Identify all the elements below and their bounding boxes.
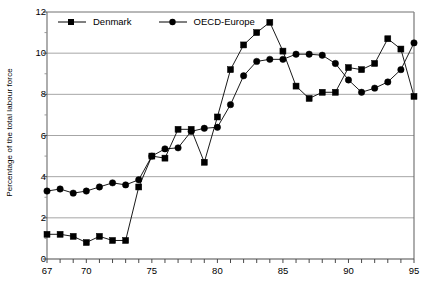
chart-legend: DenmarkOECD-Europe bbox=[57, 14, 255, 30]
data-point-marker-square bbox=[306, 95, 312, 101]
data-point-marker-circle bbox=[175, 145, 181, 151]
data-point-marker-circle bbox=[188, 128, 194, 134]
data-point-marker-square bbox=[385, 36, 391, 42]
data-point-marker-circle bbox=[57, 186, 63, 192]
data-point-marker-square bbox=[254, 30, 260, 36]
data-point-marker-circle bbox=[398, 66, 404, 72]
data-point-marker-square bbox=[110, 237, 116, 243]
data-point-marker-square bbox=[175, 126, 181, 132]
data-point-marker-square bbox=[44, 231, 50, 237]
data-point-marker-circle bbox=[214, 124, 220, 130]
data-point-marker-square bbox=[123, 237, 129, 243]
data-point-marker-circle bbox=[83, 188, 89, 194]
data-point-marker-square bbox=[280, 48, 286, 54]
data-point-marker-circle bbox=[411, 40, 417, 46]
data-point-marker-circle bbox=[70, 190, 76, 196]
data-point-marker-square bbox=[319, 89, 325, 95]
data-point-marker-circle bbox=[319, 52, 325, 58]
data-point-marker-circle bbox=[267, 56, 273, 62]
data-point-marker-square bbox=[136, 184, 142, 190]
data-point-marker-square bbox=[359, 67, 365, 73]
data-point-marker-circle bbox=[96, 184, 102, 190]
data-point-marker-square bbox=[345, 65, 351, 71]
legend-marker-circle-icon bbox=[158, 16, 188, 28]
data-point-marker-circle bbox=[358, 89, 364, 95]
legend-item-label: OECD-Europe bbox=[191, 17, 255, 27]
data-point-marker-square bbox=[293, 83, 299, 89]
data-point-marker-circle bbox=[149, 153, 155, 159]
data-point-marker-square bbox=[70, 233, 76, 239]
data-point-marker-square bbox=[411, 93, 417, 99]
data-point-marker-circle bbox=[162, 146, 168, 152]
data-point-marker-square bbox=[398, 46, 404, 52]
data-point-marker-circle bbox=[227, 101, 233, 107]
data-point-marker-square bbox=[57, 231, 63, 237]
legend-square bbox=[68, 19, 74, 25]
data-point-marker-square bbox=[162, 155, 168, 161]
data-point-marker-square bbox=[96, 233, 102, 239]
chart-container: Percentage of the total labour force 024… bbox=[0, 0, 430, 291]
data-point-marker-circle bbox=[122, 182, 128, 188]
data-point-marker-square bbox=[201, 159, 207, 165]
data-point-marker-square bbox=[372, 60, 378, 66]
data-point-marker-square bbox=[214, 114, 220, 120]
data-point-marker-square bbox=[241, 42, 247, 48]
data-point-marker-square bbox=[267, 19, 273, 25]
data-point-marker-circle bbox=[44, 188, 50, 194]
data-point-marker-circle bbox=[280, 56, 286, 62]
data-point-marker-circle bbox=[240, 73, 246, 79]
data-point-marker-circle bbox=[345, 77, 351, 83]
data-point-marker-square bbox=[83, 240, 89, 246]
axis-ticks bbox=[43, 12, 414, 263]
series-line-denmark bbox=[47, 22, 414, 242]
legend-circle bbox=[169, 19, 175, 25]
data-point-marker-circle bbox=[136, 177, 142, 183]
legend-item-denmark[interactable]: Denmark bbox=[57, 16, 132, 28]
data-point-marker-square bbox=[228, 67, 234, 73]
data-point-marker-circle bbox=[109, 180, 115, 186]
data-point-marker-circle bbox=[332, 60, 338, 66]
data-point-marker-circle bbox=[371, 85, 377, 91]
data-point-marker-circle bbox=[254, 58, 260, 64]
data-point-marker-circle bbox=[385, 79, 391, 85]
plot-area bbox=[0, 0, 430, 291]
data-point-marker-circle bbox=[293, 51, 299, 57]
data-point-marker-circle bbox=[201, 125, 207, 131]
legend-item-oecd-europe[interactable]: OECD-Europe bbox=[158, 16, 255, 28]
series-line-oecd-europe bbox=[47, 43, 414, 193]
legend-marker-square-icon bbox=[57, 16, 87, 28]
legend-item-label: Denmark bbox=[90, 17, 132, 27]
data-point-marker-circle bbox=[306, 51, 312, 57]
data-point-marker-square bbox=[332, 89, 338, 95]
